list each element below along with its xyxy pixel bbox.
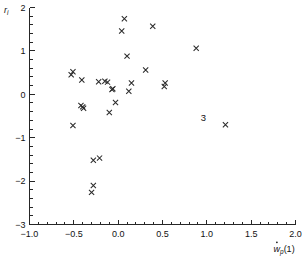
data-point-marker: [194, 46, 199, 51]
x-tick-label: 0.0: [112, 229, 125, 239]
data-point-group: [69, 16, 228, 195]
y-tick-label: 0: [20, 90, 25, 100]
x-tick-label: 2.0: [289, 229, 302, 239]
x-axis-title: wp(1): [274, 244, 295, 256]
data-point-marker: [150, 24, 155, 29]
data-point-marker: [79, 77, 84, 82]
data-point-marker: [124, 54, 129, 59]
y-tick-label: −1: [15, 133, 25, 143]
x-axis-title-argument: (1): [284, 244, 295, 254]
x-axis-title-dot-accent: [276, 241, 278, 243]
data-point-marker: [126, 89, 131, 94]
data-point-marker: [129, 80, 134, 85]
x-tick-label: −1.0: [21, 229, 39, 239]
data-point-marker: [97, 155, 102, 160]
data-point-marker: [91, 183, 96, 188]
y-axis-title: ri: [4, 5, 9, 16]
y-tick-label: 2: [20, 3, 25, 13]
x-tick-label: 0.5: [156, 229, 169, 239]
data-point-marker: [96, 79, 101, 84]
data-point-marker: [143, 67, 148, 72]
y-axis-title-subscript: i: [7, 9, 9, 16]
data-point-marker: [107, 110, 112, 115]
data-point-marker: [119, 28, 124, 33]
data-point-marker: [70, 123, 75, 128]
scatter-plot-figure: −3−2−1012−1.0−0.50.00.51.01.52.03riwp(1): [0, 0, 303, 261]
data-point-marker: [223, 122, 228, 127]
scatter-plot-canvas: −3−2−1012−1.0−0.50.00.51.01.52.03riwp(1): [0, 0, 303, 261]
data-point-marker: [113, 100, 118, 105]
x-tick-label: 1.0: [201, 229, 214, 239]
data-point-marker: [122, 16, 127, 21]
data-point-marker: [89, 190, 94, 195]
axis-frame: [30, 8, 296, 225]
x-tick-label: 1.5: [245, 229, 258, 239]
data-point-annotation: 3: [201, 112, 206, 123]
y-tick-label: 1: [20, 46, 25, 56]
data-point-marker: [163, 80, 168, 85]
data-point-marker: [91, 158, 96, 163]
x-tick-label: −0.5: [65, 229, 83, 239]
y-tick-label: −2: [15, 176, 25, 186]
